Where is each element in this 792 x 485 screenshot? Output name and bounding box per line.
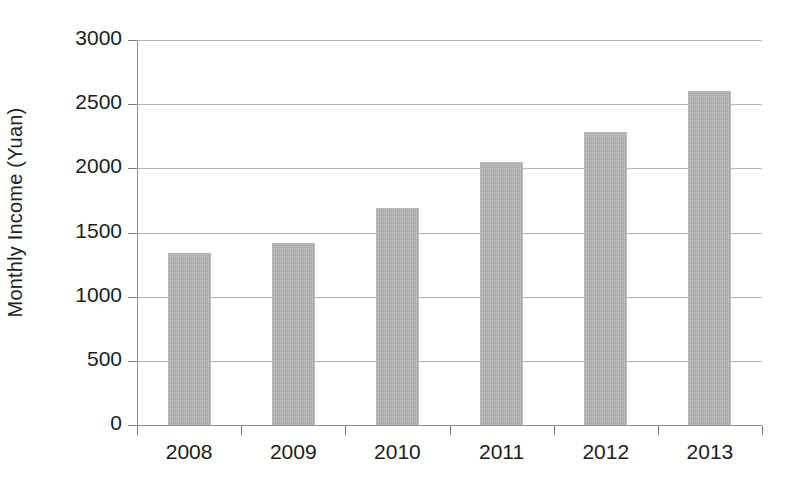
x-tick-label: 2008 — [134, 440, 244, 464]
gridline — [137, 168, 762, 169]
x-tick-mark — [554, 426, 555, 435]
bar-chart: Monthly Income (Yuan) 050010001500200025… — [0, 0, 792, 485]
bar — [688, 91, 731, 425]
y-tick-label: 2500 — [2, 90, 122, 114]
x-tick-mark — [241, 426, 242, 435]
bar — [168, 253, 211, 425]
x-tick-label: 2013 — [655, 440, 765, 464]
x-tick-mark — [345, 426, 346, 435]
x-tick-label: 2011 — [447, 440, 557, 464]
y-tick-mark — [128, 104, 137, 105]
gridline — [137, 40, 762, 41]
bar — [584, 132, 627, 425]
bar — [480, 162, 523, 425]
gridline — [137, 233, 762, 234]
bar — [272, 243, 315, 425]
y-tick-label: 3000 — [2, 26, 122, 50]
x-tick-mark — [658, 426, 659, 435]
y-tick-mark — [128, 361, 137, 362]
x-tick-mark — [450, 426, 451, 435]
gridline — [137, 361, 762, 362]
x-tick-label: 2012 — [551, 440, 661, 464]
y-tick-mark — [128, 425, 137, 426]
gridline — [137, 425, 762, 426]
y-tick-mark — [128, 297, 137, 298]
x-tick-label: 2010 — [342, 440, 452, 464]
x-tick-mark — [762, 426, 763, 435]
plot-area — [137, 40, 762, 425]
gridline — [137, 104, 762, 105]
y-tick-label: 2000 — [2, 154, 122, 178]
y-tick-label: 1000 — [2, 283, 122, 307]
x-tick-label: 2009 — [238, 440, 348, 464]
bar — [376, 208, 419, 425]
y-tick-mark — [128, 233, 137, 234]
x-tick-mark — [137, 426, 138, 435]
y-tick-label: 0 — [2, 411, 122, 435]
y-tick-label: 1500 — [2, 219, 122, 243]
y-tick-label: 500 — [2, 347, 122, 371]
y-tick-mark — [128, 168, 137, 169]
gridline — [137, 297, 762, 298]
y-tick-mark — [128, 40, 137, 41]
